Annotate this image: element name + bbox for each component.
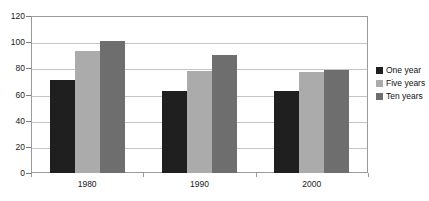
bar: [324, 70, 349, 173]
legend-swatch-icon: [376, 67, 383, 74]
bar: [162, 91, 187, 173]
bar: [274, 91, 299, 173]
y-axis-tick-label: 120: [0, 12, 25, 21]
bar-group: [162, 16, 237, 173]
legend-swatch-icon: [376, 93, 383, 100]
legend-item-label: Ten years: [386, 92, 423, 101]
legend-item[interactable]: Five years: [376, 77, 429, 89]
y-axis-tick-label: 100: [0, 38, 25, 47]
bar: [187, 71, 212, 173]
legend-item[interactable]: One year: [376, 64, 429, 76]
legend-item-label: Five years: [386, 79, 425, 88]
bar: [50, 80, 75, 173]
legend-item[interactable]: Ten years: [376, 90, 429, 102]
x-axis-tick-label: 1990: [170, 180, 230, 189]
bars-layer: [31, 16, 368, 173]
bar-chart-figure: 020406080100120 198019902000 One yearFiv…: [0, 0, 429, 201]
bar: [100, 41, 125, 173]
bar-group: [50, 16, 125, 173]
bar: [75, 51, 100, 173]
x-axis-tick-mark: [368, 173, 369, 177]
x-axis-tick-label: 2000: [282, 180, 342, 189]
x-axis-tick-label: 1980: [57, 180, 117, 189]
y-axis-tick-label: 0: [0, 169, 25, 178]
y-axis-tick-label: 40: [0, 117, 25, 126]
bar-group: [274, 16, 349, 173]
bar: [299, 72, 324, 173]
x-axis-tick-mark: [143, 173, 144, 177]
legend-item-label: One year: [386, 66, 421, 75]
bar: [212, 55, 237, 173]
y-axis-tick-label: 20: [0, 143, 25, 152]
x-axis-tick-mark: [256, 173, 257, 177]
y-axis-tick-label: 80: [0, 64, 25, 73]
chart-legend: One yearFive yearsTen years: [376, 64, 429, 103]
y-axis-tick-label: 60: [0, 91, 25, 100]
legend-swatch-icon: [376, 80, 383, 87]
x-axis-tick-mark: [31, 173, 32, 177]
